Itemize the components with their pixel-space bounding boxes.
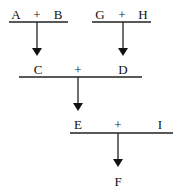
plus-sign: + bbox=[33, 7, 40, 22]
stage-ei: E + I bbox=[70, 117, 173, 167]
label-d: D bbox=[118, 62, 127, 77]
plus-sign: + bbox=[114, 117, 121, 132]
label-g: G bbox=[95, 7, 104, 22]
plus-sign: + bbox=[118, 7, 125, 22]
arrow-down-icon bbox=[118, 48, 128, 56]
label-e: E bbox=[74, 117, 82, 132]
stage-gh: G + H bbox=[92, 7, 151, 56]
label-f-final-product: F bbox=[114, 174, 121, 189]
stage-cd: C + D bbox=[19, 62, 142, 111]
label-h: H bbox=[138, 7, 147, 22]
arrow-down-icon bbox=[113, 159, 123, 167]
label-a: A bbox=[11, 7, 21, 22]
arrow-down-icon bbox=[73, 103, 83, 111]
reaction-diagram: A + B G + H C + D E + I F bbox=[0, 0, 183, 195]
arrow-down-icon bbox=[32, 48, 42, 56]
label-i: I bbox=[158, 117, 162, 132]
label-b: B bbox=[54, 7, 63, 22]
label-c: C bbox=[34, 62, 43, 77]
plus-sign: + bbox=[74, 62, 81, 77]
stage-ab: A + B bbox=[9, 7, 68, 56]
